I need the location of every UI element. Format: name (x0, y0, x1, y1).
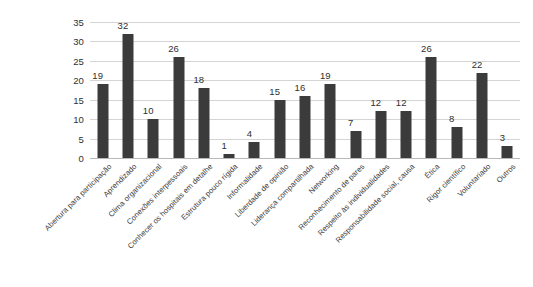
bar-value-label: 26 (168, 43, 179, 54)
x-axis-labels: Abertura para participaçãoAprendizadoCli… (90, 160, 520, 285)
y-axis-tick-label: 0 (44, 153, 84, 164)
gridline (90, 158, 520, 159)
bar (299, 96, 310, 158)
bar (325, 84, 336, 158)
bar-slot: 19 (318, 22, 343, 158)
bar-value-label: 18 (193, 74, 204, 85)
bar (224, 154, 235, 158)
bar-value-label: 16 (295, 82, 306, 93)
bar-value-label: 26 (421, 43, 432, 54)
bar-slot: 4 (242, 22, 267, 158)
bar-value-label: 12 (396, 97, 407, 108)
bar-value-label: 22 (472, 59, 483, 70)
bar-slot: 15 (267, 22, 292, 158)
bar (173, 57, 184, 158)
x-axis-category-label: Abertura para participação (42, 162, 113, 233)
bar-value-label: 19 (92, 70, 103, 81)
bar-value-label: 12 (370, 97, 381, 108)
plot-area: 19321026181415161971212268223 (90, 22, 520, 158)
bar-slot: 32 (115, 22, 140, 158)
y-axis-tick-label: 25 (44, 55, 84, 66)
y-axis-tick-label: 15 (44, 94, 84, 105)
bar (274, 100, 285, 158)
bar (426, 57, 437, 158)
bar (477, 73, 488, 158)
bar (198, 88, 209, 158)
y-axis-tick-label: 10 (44, 114, 84, 125)
bar (97, 84, 108, 158)
x-axis-category-label: Outros (495, 162, 518, 185)
bar-slot: 3 (495, 22, 520, 158)
y-axis-tick-label: 35 (44, 17, 84, 28)
x-axis-category-label: Ética (423, 162, 441, 180)
bar-value-label: 32 (118, 20, 129, 31)
bar-slot: 1 (216, 22, 241, 158)
bar (249, 142, 260, 158)
bar (451, 127, 462, 158)
bar-slot: 7 (343, 22, 368, 158)
bar-slot: 19 (90, 22, 115, 158)
bar-value-label: 3 (500, 132, 505, 143)
y-axis-tick-label: 5 (44, 133, 84, 144)
bar-chart: 05101520253035 1932102618141516197121226… (0, 0, 533, 287)
bar-value-label: 7 (348, 117, 353, 128)
bar-slot: 12 (368, 22, 393, 158)
bar-value-label: 4 (247, 128, 252, 139)
bar-value-label: 15 (269, 86, 280, 97)
y-axis-tick-label: 20 (44, 75, 84, 86)
y-axis-tick-label: 30 (44, 36, 84, 47)
bar-slot: 26 (166, 22, 191, 158)
bar-value-label: 8 (449, 113, 454, 124)
bar-slot: 18 (191, 22, 216, 158)
bar (148, 119, 159, 158)
bar-slot: 12 (394, 22, 419, 158)
bar-slot: 8 (444, 22, 469, 158)
bar-slot: 10 (141, 22, 166, 158)
bar-slot: 22 (469, 22, 494, 158)
bar-slot: 26 (419, 22, 444, 158)
bar (401, 111, 412, 158)
bar (502, 146, 513, 158)
bar-slot: 16 (292, 22, 317, 158)
bar (375, 111, 386, 158)
bar (350, 131, 361, 158)
bar-value-label: 1 (221, 140, 226, 151)
bar-value-label: 19 (320, 70, 331, 81)
bar (122, 34, 133, 158)
bar-value-label: 10 (143, 105, 154, 116)
